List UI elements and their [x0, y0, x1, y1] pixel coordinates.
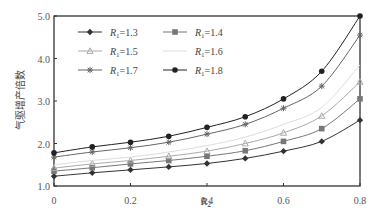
y-tick-label: 5.0	[38, 11, 51, 22]
star-marker-icon	[166, 139, 172, 145]
legend-label: R1=1.6	[194, 46, 223, 59]
square-marker-icon	[357, 96, 363, 102]
square-marker-icon	[172, 29, 178, 35]
y-tick-label: 1.0	[38, 181, 51, 192]
star-marker-icon	[87, 67, 93, 73]
legend-label: R1=1.4	[194, 27, 223, 40]
star-marker-icon	[242, 121, 248, 127]
diamond-marker-icon	[127, 167, 133, 173]
x-tick-label: 0.6	[277, 195, 290, 206]
x-tick-label: 0.8	[354, 195, 367, 206]
square-marker-icon	[204, 153, 210, 159]
legend-label: R1=1.3	[109, 27, 138, 40]
circle-marker-icon	[319, 68, 325, 74]
star-marker-icon	[281, 105, 287, 111]
series-group	[51, 13, 363, 179]
legend-label: R1=1.7	[109, 65, 138, 78]
legend: R1=1.3R1=1.4R1=1.5R1=1.6R1=1.7R1=1.8	[78, 27, 223, 78]
circle-marker-icon	[89, 144, 95, 150]
diamond-marker-icon	[51, 173, 57, 179]
x-tick-label: 0.2	[124, 195, 137, 206]
legend-label: R1=1.5	[109, 46, 138, 59]
circle-marker-icon	[204, 125, 210, 131]
star-marker-icon	[128, 145, 134, 151]
diamond-marker-icon	[204, 160, 210, 166]
square-marker-icon	[89, 165, 95, 171]
x-tick-label: 0	[52, 195, 57, 206]
circle-marker-icon	[281, 96, 287, 102]
circle-marker-icon	[242, 114, 248, 120]
circle-marker-icon	[172, 67, 178, 73]
square-marker-icon	[319, 126, 325, 132]
axes: 00.20.40.60.81.02.03.04.05.0	[38, 11, 367, 206]
legend-item: R1=1.8	[163, 65, 223, 78]
diamond-marker-icon	[166, 164, 172, 170]
y-axis-label: 气驱增产倍数	[14, 70, 26, 130]
diamond-marker-icon	[319, 138, 325, 144]
legend-item: R1=1.5	[78, 46, 138, 59]
y-tick-label: 2.0	[38, 139, 51, 150]
legend-label: R1=1.8	[194, 65, 223, 78]
circle-marker-icon	[51, 150, 57, 156]
square-marker-icon	[242, 148, 248, 154]
y-tick-label: 4.0	[38, 54, 51, 65]
circle-marker-icon	[166, 133, 172, 139]
star-marker-icon	[319, 83, 325, 89]
legend-item: R1=1.6	[163, 46, 223, 59]
line-chart: 00.20.40.60.81.02.03.04.05.0 R1=1.3R1=1.…	[0, 0, 382, 208]
y-tick-label: 3.0	[38, 96, 51, 107]
diamond-marker-icon	[87, 29, 93, 35]
diamond-marker-icon	[89, 170, 95, 176]
star-marker-icon	[89, 149, 95, 155]
legend-item: R1=1.4	[163, 27, 223, 40]
diamond-marker-icon	[242, 155, 248, 161]
star-marker-icon	[357, 32, 363, 38]
legend-item: R1=1.7	[78, 65, 138, 78]
series-line	[54, 65, 360, 165]
circle-marker-icon	[357, 13, 363, 19]
square-marker-icon	[281, 139, 287, 145]
diamond-marker-icon	[357, 117, 363, 123]
diamond-marker-icon	[280, 148, 286, 154]
legend-item: R1=1.3	[78, 27, 138, 40]
circle-marker-icon	[128, 139, 134, 145]
star-marker-icon	[204, 131, 210, 137]
series-R1-1-6	[54, 65, 360, 165]
